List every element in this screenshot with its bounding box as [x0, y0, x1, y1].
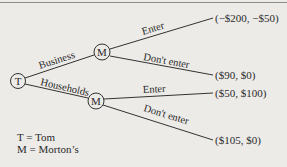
legend-symbol: M [17, 143, 27, 155]
root-node: T [11, 74, 26, 89]
legend-sep: = [24, 131, 36, 143]
root-node-label: T [15, 75, 22, 87]
payoff-households-enter: ($50, $100) [215, 87, 267, 100]
legend-meaning: Morton’s [39, 143, 79, 155]
legend-sep: = [27, 143, 39, 155]
households-m-node-label: M [91, 95, 101, 107]
payoff-business-enter: (−$200, −$50) [215, 12, 279, 25]
households-m-node: M [88, 93, 104, 109]
label-business-enter: Enter [140, 20, 165, 37]
label-business-dont-enter: Don't enter [143, 51, 191, 70]
legend-row-mortons: M = Morton’s [17, 143, 79, 155]
payoff-households-dont-enter: ($105, $0) [215, 134, 261, 147]
legend-meaning: Tom [35, 131, 55, 143]
game-tree-diagram: T M M Business Households Enter Don't en… [0, 0, 287, 167]
payoff-business-dont-enter: ($90, $0) [215, 69, 256, 82]
business-m-node: M [94, 44, 110, 60]
label-households-dont-enter: Don't enter [142, 102, 190, 126]
legend-row-tom: T = Tom [17, 131, 79, 143]
label-households-enter: Enter [143, 83, 167, 95]
legend: T = Tom M = Morton’s [17, 131, 79, 155]
business-m-node-label: M [97, 46, 107, 58]
label-households: Households [40, 76, 91, 98]
